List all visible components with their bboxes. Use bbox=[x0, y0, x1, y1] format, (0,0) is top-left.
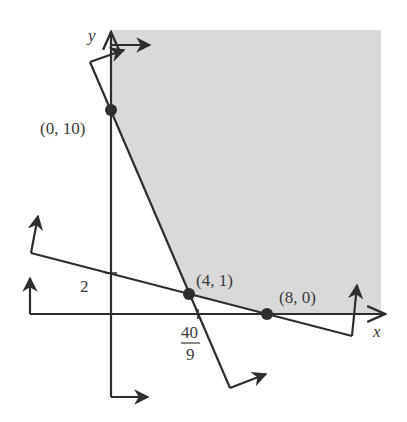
point-label-8-0: (8, 0) bbox=[279, 288, 316, 307]
shallow-constraint-left-indicator bbox=[31, 216, 38, 253]
point-label-0-10: (0, 10) bbox=[40, 119, 85, 138]
y-intercept-label: 2 bbox=[80, 277, 89, 296]
feasible-region bbox=[111, 30, 381, 314]
steep-constraint-bottom-indicator bbox=[230, 374, 266, 388]
x-intercept-denominator: 9 bbox=[186, 345, 195, 364]
point-8-0 bbox=[261, 308, 273, 320]
feasible-region-diagram: y x (0, 10) (4, 1) (8, 0) 2 40 9 bbox=[0, 0, 407, 422]
point-4-1 bbox=[183, 288, 195, 300]
x-intercept-numerator: 40 bbox=[181, 323, 198, 342]
point-0-10 bbox=[105, 104, 117, 116]
point-label-4-1: (4, 1) bbox=[196, 271, 233, 290]
x-axis-label: x bbox=[372, 322, 381, 341]
y-axis-label: y bbox=[86, 26, 96, 45]
